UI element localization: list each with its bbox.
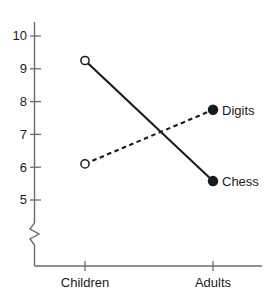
marker-chess-adults	[208, 177, 217, 186]
x-axis-category-label-adults: Adults	[173, 276, 253, 289]
y-axis-tick-label-5: 5	[0, 193, 27, 206]
plot-area	[0, 0, 270, 297]
y-axis-tick-label-7: 7	[0, 128, 27, 141]
series-label-chess: Chess	[222, 175, 259, 188]
marker-digits-children	[81, 160, 89, 168]
y-axis-tick-label-10: 10	[0, 29, 27, 42]
marker-chess-children	[81, 56, 89, 64]
series-line-digits	[85, 110, 213, 164]
marker-digits-adults	[208, 105, 217, 114]
series-label-digits: Digits	[222, 104, 255, 117]
series-line-chess	[85, 61, 213, 182]
y-axis-ticks	[30, 36, 41, 200]
y-axis-break-icon	[30, 223, 39, 245]
line-chart: 10 9 8 7 6 5 Children Adults Digits Ches…	[0, 0, 270, 297]
x-axis-category-label-children: Children	[35, 276, 135, 289]
y-axis-tick-label-9: 9	[0, 62, 27, 75]
y-axis-tick-label-6: 6	[0, 161, 27, 174]
y-axis-tick-label-8: 8	[0, 95, 27, 108]
